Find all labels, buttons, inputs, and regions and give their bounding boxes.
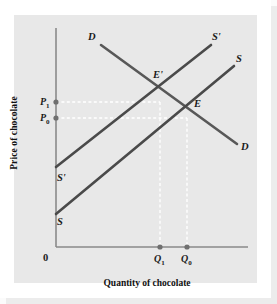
quantity-label-q1-sub: 1 [161,259,165,267]
guide-lines [56,102,187,247]
dot-q0 [184,244,189,249]
supply-original-curve [56,66,234,214]
y-axis-title: Price of chocolate [9,73,19,193]
supply-shifted-label-top: S' [212,31,221,42]
origin-label: 0 [43,252,48,263]
quantity-label-q1: Q1 [154,253,165,267]
supply-label-bottom: S [57,216,63,227]
price-label-p1: P1 [40,96,50,110]
marker-dots [53,99,189,249]
equilibrium-shifted-label: E' [153,69,163,80]
price-label-p0-sub: 0 [46,118,50,126]
quantity-label-q0-sub: 0 [188,259,192,267]
demand-curve [101,45,237,144]
supply-shifted-label-bottom: S' [57,172,66,183]
price-label-p0: P0 [40,112,50,126]
equilibrium-original-label: E [194,98,201,109]
supply-label-top: S [236,53,242,64]
demand-label-bottom: D [241,141,249,152]
price-label-p1-sub: 1 [46,102,50,110]
demand-label-top: D [88,31,96,42]
dot-p1 [53,99,58,104]
quantity-label-q0: Q0 [181,253,192,267]
supply-demand-figure: Price of chocolate Quantity of chocolate… [0,0,277,304]
chart-canvas [0,0,277,304]
axes [56,28,248,247]
dot-q1 [157,244,162,249]
dot-p0 [53,115,58,120]
x-axis-title: Quantity of chocolate [52,278,242,288]
